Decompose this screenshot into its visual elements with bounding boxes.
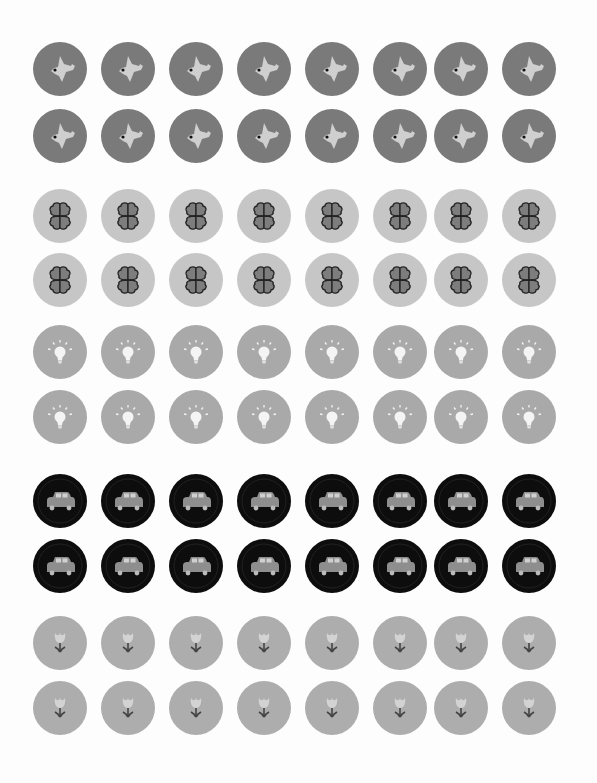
sticker-tulip (305, 616, 359, 670)
sticker-clover (169, 253, 223, 307)
lightbulb-icon (434, 325, 488, 379)
sticker-bird (169, 42, 223, 96)
car-icon (237, 474, 291, 528)
bird-icon (502, 109, 556, 163)
sticker-car (237, 539, 291, 593)
lightbulb-icon (33, 390, 87, 444)
lightbulb-icon (305, 390, 359, 444)
sticker-lightbulb (237, 325, 291, 379)
car-icon (305, 474, 359, 528)
car-icon (502, 474, 556, 528)
sticker-lightbulb (373, 325, 427, 379)
sticker-lightbulb (101, 390, 155, 444)
sticker-lightbulb (305, 325, 359, 379)
sticker-clover (502, 189, 556, 243)
car-icon (33, 539, 87, 593)
tulip-icon (33, 616, 87, 670)
sticker-clover (33, 253, 87, 307)
car-icon (169, 539, 223, 593)
car-icon (373, 539, 427, 593)
tulip-icon (502, 681, 556, 735)
sticker-clover (305, 189, 359, 243)
lightbulb-icon (101, 390, 155, 444)
lightbulb-icon (305, 325, 359, 379)
sticker-clover (101, 253, 155, 307)
sticker-lightbulb (502, 325, 556, 379)
sticker-lightbulb (237, 390, 291, 444)
lightbulb-icon (33, 325, 87, 379)
bird-icon (373, 42, 427, 96)
sticker-bird (101, 42, 155, 96)
bird-icon (502, 42, 556, 96)
bird-icon (237, 42, 291, 96)
sticker-lightbulb (305, 390, 359, 444)
sticker-bird (434, 109, 488, 163)
clover-icon (169, 253, 223, 307)
sticker-bird (237, 42, 291, 96)
tulip-icon (237, 616, 291, 670)
tulip-icon (434, 616, 488, 670)
sticker-bird (502, 42, 556, 96)
sticker-tulip (169, 616, 223, 670)
sticker-clover (373, 189, 427, 243)
sticker-tulip (169, 681, 223, 735)
sticker-clover (33, 189, 87, 243)
bird-icon (373, 109, 427, 163)
sticker-clover (373, 253, 427, 307)
car-icon (101, 474, 155, 528)
tulip-icon (101, 616, 155, 670)
sticker-car (434, 474, 488, 528)
clover-icon (502, 189, 556, 243)
sticker-bird (502, 109, 556, 163)
sticker-car (502, 474, 556, 528)
sticker-clover (305, 253, 359, 307)
bird-icon (305, 42, 359, 96)
sticker-bird (373, 42, 427, 96)
tulip-icon (101, 681, 155, 735)
tulip-icon (373, 681, 427, 735)
lightbulb-icon (169, 325, 223, 379)
sticker-clover (169, 189, 223, 243)
sticker-bird (373, 109, 427, 163)
bird-icon (305, 109, 359, 163)
sticker-lightbulb (434, 325, 488, 379)
lightbulb-icon (373, 325, 427, 379)
car-icon (434, 474, 488, 528)
lightbulb-icon (101, 325, 155, 379)
tulip-icon (169, 681, 223, 735)
clover-icon (434, 189, 488, 243)
sticker-clover (101, 189, 155, 243)
sticker-tulip (237, 681, 291, 735)
bird-icon (434, 42, 488, 96)
sticker-car (305, 539, 359, 593)
sticker-car (373, 539, 427, 593)
sticker-tulip (502, 681, 556, 735)
bird-icon (169, 109, 223, 163)
sticker-car (33, 474, 87, 528)
bird-icon (33, 42, 87, 96)
sticker-car (101, 539, 155, 593)
clover-icon (101, 253, 155, 307)
sticker-clover (237, 189, 291, 243)
sticker-tulip (33, 616, 87, 670)
tulip-icon (373, 616, 427, 670)
bird-icon (237, 109, 291, 163)
tulip-icon (305, 616, 359, 670)
tulip-icon (237, 681, 291, 735)
sticker-car (169, 539, 223, 593)
sticker-clover (434, 253, 488, 307)
tulip-icon (33, 681, 87, 735)
lightbulb-icon (169, 390, 223, 444)
sticker-lightbulb (434, 390, 488, 444)
sticker-clover (237, 253, 291, 307)
tulip-icon (434, 681, 488, 735)
tulip-icon (502, 616, 556, 670)
clover-icon (33, 253, 87, 307)
sticker-tulip (373, 616, 427, 670)
car-icon (237, 539, 291, 593)
sticker-tulip (502, 616, 556, 670)
bird-icon (169, 42, 223, 96)
sticker-tulip (33, 681, 87, 735)
lightbulb-icon (502, 325, 556, 379)
lightbulb-icon (373, 390, 427, 444)
